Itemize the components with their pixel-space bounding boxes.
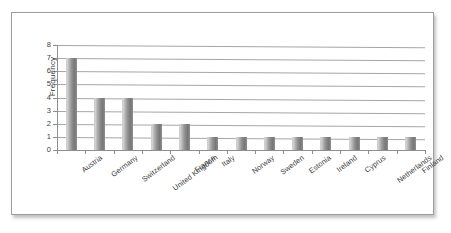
bar: [94, 98, 105, 151]
bar: [207, 137, 218, 150]
bar: [151, 124, 162, 150]
y-axis-tick-label: 1: [39, 133, 51, 141]
bar: [236, 137, 247, 150]
bar: [377, 137, 388, 150]
bar: [66, 58, 77, 150]
x-axis-tick: [114, 150, 115, 154]
x-axis-tick: [255, 150, 256, 154]
y-axis-tick-label: 2: [39, 120, 51, 128]
y-axis-title: Frequency: [48, 47, 57, 107]
y-axis-tick-labels: 876543210: [37, 0, 51, 233]
bar: [122, 98, 133, 151]
x-axis-tick: [368, 150, 369, 154]
bar: [292, 137, 303, 150]
x-axis-tick: [340, 150, 341, 154]
bar: [320, 137, 331, 150]
x-axis-line: [57, 150, 425, 151]
bar: [405, 137, 416, 150]
y-axis-tick-label: 0: [39, 146, 51, 154]
y-axis-tick-label: 3: [39, 107, 51, 115]
x-axis-tick: [312, 150, 313, 154]
x-axis-tick: [397, 150, 398, 154]
x-axis-tick: [142, 150, 143, 154]
x-axis-tick: [283, 150, 284, 154]
bar: [179, 124, 190, 150]
bar: [264, 137, 275, 150]
plot-area: [57, 45, 425, 150]
x-axis-tick: [199, 150, 200, 154]
chart-figure: 876543210 Frequency AustriaGermanySwitze…: [0, 0, 451, 233]
bar: [349, 137, 360, 150]
x-axis-tick: [227, 150, 228, 154]
x-axis-tick: [85, 150, 86, 154]
x-axis-tick: [57, 150, 58, 154]
